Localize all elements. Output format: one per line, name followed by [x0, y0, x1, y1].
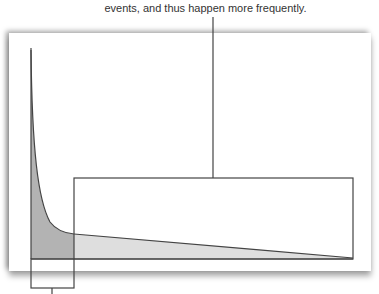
long-tail-diagram — [0, 0, 379, 294]
head-region — [31, 50, 74, 259]
distribution-curve — [31, 50, 353, 258]
head-bracket-box — [31, 259, 74, 288]
